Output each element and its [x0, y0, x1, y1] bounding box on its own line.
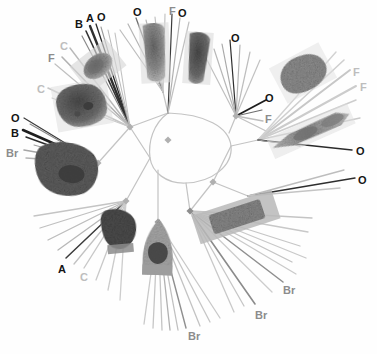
tip-label-br-8: Br — [6, 148, 18, 159]
micrograph-bottom-mid-a — [100, 207, 139, 254]
tip-label-f-10: F — [169, 6, 176, 17]
tip-label-a-19: A — [58, 264, 66, 275]
tip-label-o-6: O — [11, 113, 20, 124]
micrograph-left-large — [50, 77, 113, 132]
tip-label-o-12: O — [231, 33, 240, 44]
tip-label-br-21: Br — [283, 285, 295, 296]
tip-label-o-9: O — [133, 7, 142, 18]
tip-label-b-0: B — [75, 19, 83, 30]
micrograph-top-center-rod — [138, 22, 171, 84]
micrograph-upper-right-blob — [269, 42, 337, 104]
tip-label-c-3: C — [60, 41, 68, 52]
tip-label-a-1: A — [86, 13, 94, 24]
tip-label-o-17: O — [356, 146, 365, 157]
tip-label-c-20: C — [80, 272, 88, 283]
tip-label-f-15: F — [353, 67, 360, 78]
tip-label-f-14: F — [265, 114, 272, 125]
tree-canvas — [0, 0, 377, 354]
micrograph-bottom-mid-b — [142, 218, 174, 275]
micrograph-layer — [32, 22, 356, 275]
tip-label-br-22: Br — [255, 310, 267, 321]
tip-label-f-16: F — [360, 82, 367, 93]
tip-label-b-7: B — [11, 128, 19, 139]
tip-label-o-2: O — [97, 12, 106, 23]
micrograph-left-lower — [32, 140, 100, 199]
tip-label-o-11: O — [178, 8, 187, 19]
phylogenetic-tree-figure: BAOCFCOBBrOFOOOFFFOOACBrBrBr — [0, 0, 377, 354]
tip-label-o-18: O — [358, 175, 367, 186]
tip-label-f-4: F — [48, 53, 55, 64]
tip-label-c-5: C — [37, 84, 45, 95]
micrograph-top-right-rod — [182, 31, 214, 85]
tip-label-o-13: O — [265, 93, 274, 104]
tip-label-br-23: Br — [188, 331, 200, 342]
